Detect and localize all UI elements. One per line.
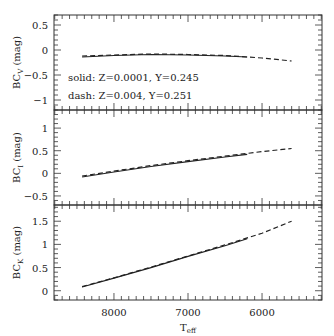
y-axis-label: BCK (mag) [11, 226, 25, 279]
panels: 0.50−0.5−1BCV (mag)10.50−0.5BCI (mag)1.5… [11, 15, 322, 300]
y-tick-label: 0 [42, 286, 48, 297]
x-axis: 800070006000Teff [101, 307, 275, 335]
y-tick-label: −1 [33, 95, 48, 106]
x-axis-label: Teff [180, 322, 197, 335]
chart: 0.50−0.5−1BCV (mag)10.50−0.5BCI (mag)1.5… [0, 0, 334, 336]
y-tick-label: −0.5 [24, 191, 48, 202]
y-tick-label: 0.5 [32, 263, 48, 274]
y-tick-label: 1 [42, 239, 48, 250]
legend-solid-label: solid: Z=0.0001, Y=0.245 [68, 72, 199, 83]
y-tick-label: −0.5 [24, 70, 48, 81]
dash-line [82, 221, 292, 286]
y-tick-label: 0 [42, 168, 48, 179]
legend-dash-label: dash: Z=0.004, Y=0.251 [68, 90, 192, 101]
solid-line [82, 154, 247, 177]
x-tick-label: 8000 [101, 307, 126, 318]
panel-i: 10.50−0.5BCI (mag) [11, 110, 322, 205]
y-tick-label: 0 [42, 45, 48, 56]
y-tick-label: 1 [42, 123, 48, 134]
y-tick-label: 0.5 [32, 146, 48, 157]
panel-k: 1.510.50BCK (mag) [11, 205, 322, 300]
y-axis-label: BCI (mag) [11, 132, 25, 183]
x-tick-label: 7000 [175, 307, 200, 318]
y-tick-label: 1.5 [32, 216, 48, 227]
y-tick-label: 0.5 [32, 20, 48, 31]
x-tick-label: 6000 [249, 307, 274, 318]
y-axis-label: BCV (mag) [11, 36, 25, 89]
